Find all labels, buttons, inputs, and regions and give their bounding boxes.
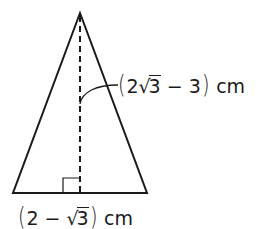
base-open-paren: ( (18, 205, 26, 229)
height-close-paren: ) (202, 73, 210, 97)
height-coefficient: 2 (126, 75, 138, 97)
base-lead: 2 − (26, 207, 66, 229)
base-radicand: 3 (77, 207, 89, 228)
height-sqrt: √3 (138, 75, 160, 96)
triangle-diagram (0, 0, 258, 229)
base-unit: cm (104, 207, 133, 229)
height-radicand: 3 (149, 75, 161, 96)
height-rest: − 3 (161, 75, 201, 97)
height-open-paren: ( (118, 73, 126, 97)
base-close-paren: ) (90, 205, 98, 229)
base-sqrt: √3 (66, 207, 88, 228)
height-unit: cm (216, 75, 245, 97)
height-label: (2√3 − 3)cm (117, 73, 245, 97)
base-label: (2 − √3)cm (17, 205, 133, 229)
